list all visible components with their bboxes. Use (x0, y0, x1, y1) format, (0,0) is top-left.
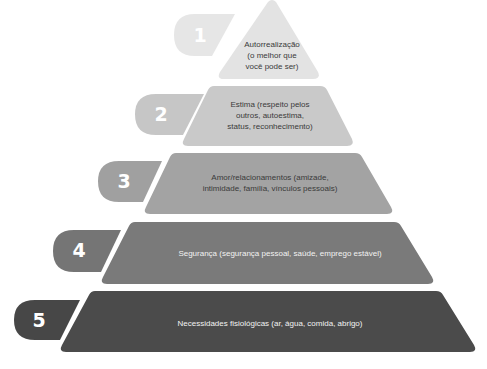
level-3-label: Amor/relacionamentos (amizade, intimidad… (165, 172, 375, 194)
level-2-label-line: Estima (respeito pelos (200, 99, 340, 110)
level-1-label-line: (o melhor que (222, 50, 322, 61)
level-1-label-line: você pode ser) (222, 61, 322, 72)
level-4-label: Segurança (segurança pessoal, saúde, emp… (140, 248, 420, 259)
level-1-label: Autorrealização (o melhor que você pode … (222, 39, 322, 72)
level-3-label-line: intimidade, família, vínculos pessoais) (165, 183, 375, 194)
level-5-label: Necessidades fisiológicas (ar, água, com… (120, 318, 420, 329)
level-5-label-line: Necessidades fisiológicas (ar, água, com… (120, 318, 420, 329)
level-3-number: 3 (104, 172, 144, 191)
level-2-label: Estima (respeito pelos outros, autoestim… (200, 99, 340, 132)
level-2-label-line: status, reconhecimento) (200, 121, 340, 132)
level-2-number: 2 (141, 105, 181, 124)
level-3-label-line: Amor/relacionamentos (amizade, (165, 172, 375, 183)
level-4-number: 4 (59, 241, 99, 260)
level-2-label-line: outros, autoestima, (200, 110, 340, 121)
level-1-label-line: Autorrealização (222, 39, 322, 50)
level-4-label-line: Segurança (segurança pessoal, saúde, emp… (140, 248, 420, 259)
maslow-pyramid-diagram: 1 2 3 4 5 Autorrealização (o melhor que … (0, 0, 487, 369)
level-5-number: 5 (19, 311, 59, 330)
level-1-number: 1 (180, 26, 220, 45)
